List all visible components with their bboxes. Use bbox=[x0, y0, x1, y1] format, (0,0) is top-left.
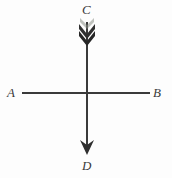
label-point-b: B bbox=[153, 86, 161, 99]
label-point-d: D bbox=[82, 159, 91, 172]
diagram-canvas bbox=[0, 0, 172, 178]
geometry-diagram: A B C D bbox=[0, 0, 172, 178]
label-point-c: C bbox=[82, 3, 91, 16]
label-point-a: A bbox=[7, 86, 15, 99]
